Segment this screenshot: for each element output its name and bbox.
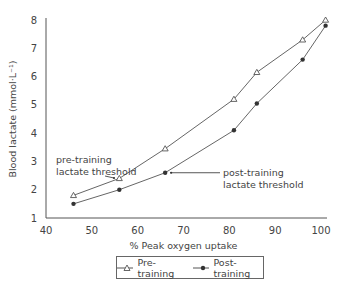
x-tick-label: 70: [177, 225, 190, 236]
annotations: pre-traininglactate thresholdpost-traini…: [56, 154, 304, 190]
filled-circle-marker-icon: [193, 264, 209, 272]
x-tick-label: 40: [40, 225, 53, 236]
y-axis-label: Blood lactate (mmol·L⁻¹): [7, 60, 18, 177]
y-tick-label: 5: [31, 99, 37, 110]
y-tick-label: 8: [31, 15, 37, 26]
circle-marker-icon: [232, 128, 236, 132]
circle-marker-icon: [300, 57, 304, 61]
x-tick-label: 50: [85, 225, 98, 236]
arrow-head-icon: [170, 172, 172, 174]
legend-label-pre: Pre-training: [137, 257, 183, 279]
triangle-marker-icon: [254, 69, 260, 74]
lactate-chart: 40506070809010012345678% Peak oxygen upt…: [0, 0, 346, 292]
legend-item-post: Post-training: [193, 257, 263, 279]
x-tick-label: 100: [311, 225, 330, 236]
circle-marker-icon: [255, 101, 259, 105]
annotation-post-line1: post-training: [223, 167, 284, 178]
annotation-pre-line2: lactate threshold: [56, 166, 137, 177]
axes: 40506070809010012345678% Peak oxygen upt…: [7, 15, 331, 252]
annotation-post-line2: lactate threshold: [223, 179, 304, 190]
triangle-marker-icon: [162, 146, 168, 151]
circle-marker-icon: [323, 23, 327, 27]
y-tick-label: 2: [31, 184, 37, 195]
circle-marker-icon: [163, 171, 167, 175]
x-tick-label: 90: [269, 225, 282, 236]
y-tick-label: 7: [31, 43, 37, 54]
y-tick-label: 6: [31, 71, 37, 82]
y-tick-label: 4: [31, 128, 37, 139]
x-axis-label: % Peak oxygen uptake: [130, 240, 238, 251]
arrow-head-icon: [113, 177, 115, 179]
y-tick-label: 1: [31, 213, 37, 224]
legend: Pre-training Post-training: [116, 256, 264, 279]
annotation-pre-line1: pre-training: [56, 154, 112, 165]
legend-item-pre: Pre-training: [117, 257, 183, 279]
x-tick-label: 80: [223, 225, 236, 236]
legend-label-post: Post-training: [213, 257, 263, 279]
x-tick-label: 60: [131, 225, 144, 236]
series-layer: [71, 17, 329, 206]
open-triangle-marker-icon: [117, 264, 133, 272]
triangle-marker-icon: [323, 17, 329, 22]
circle-marker-icon: [71, 202, 75, 206]
y-tick-label: 3: [31, 156, 37, 167]
circle-marker-icon: [117, 188, 121, 192]
